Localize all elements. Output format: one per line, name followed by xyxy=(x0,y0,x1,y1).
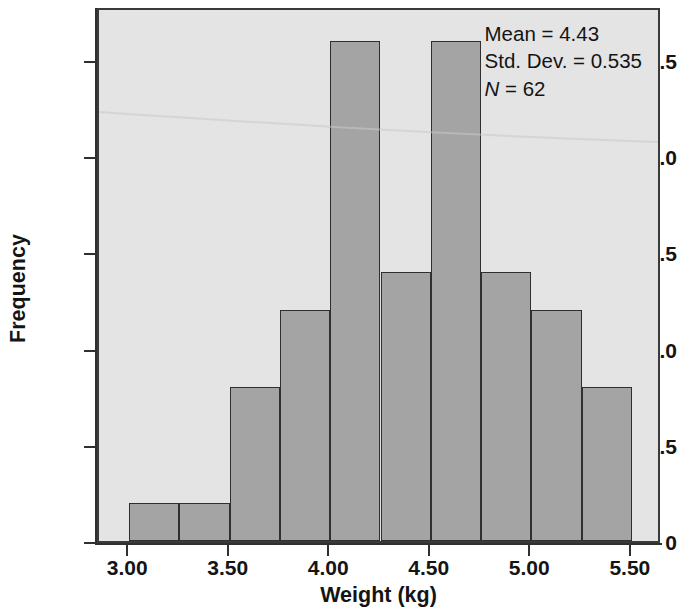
x-axis-tick-mark xyxy=(126,545,128,556)
histogram-bar xyxy=(531,310,581,541)
x-axis-tick-mark xyxy=(629,545,631,556)
histogram-bar xyxy=(582,387,632,541)
histogram-bar xyxy=(179,503,229,541)
x-axis-title: Weight (kg) xyxy=(97,583,660,608)
y-axis-tick-mark xyxy=(84,157,95,159)
y-axis-tick-mark xyxy=(84,253,95,255)
histogram-bar xyxy=(330,41,380,541)
histogram-bar xyxy=(280,310,330,541)
statistics-annotation: Mean = 4.43 Std. Dev. = 0.535 N = 62 xyxy=(485,20,642,102)
stat-n-value: = 62 xyxy=(499,77,545,100)
y-axis-tick-mark xyxy=(84,446,95,448)
y-axis-tick-mark xyxy=(84,350,95,352)
histogram-bar xyxy=(431,41,481,541)
stat-n: N = 62 xyxy=(485,75,642,102)
plot-area: Mean = 4.43 Std. Dev. = 0.535 N = 62 xyxy=(97,8,660,543)
stat-std-dev: Std. Dev. = 0.535 xyxy=(485,47,642,74)
x-axis-tick-label: 4.50 xyxy=(384,556,474,580)
x-axis-tick-mark xyxy=(528,545,530,556)
x-axis-tick-label: 4.00 xyxy=(283,556,373,580)
stat-mean: Mean = 4.43 xyxy=(485,20,642,47)
y-axis-tick-mark xyxy=(84,542,95,544)
x-axis-tick-label: 5.00 xyxy=(484,556,574,580)
y-axis-tick-mark xyxy=(84,61,95,63)
x-axis-line xyxy=(95,543,662,545)
x-axis-tick-mark xyxy=(428,545,430,556)
x-axis-tick-mark xyxy=(227,545,229,556)
x-axis-tick-mark xyxy=(327,545,329,556)
stat-n-symbol: N xyxy=(485,77,500,100)
histogram-bar xyxy=(129,503,179,541)
x-axis-tick-label: 3.00 xyxy=(82,556,172,580)
x-axis-tick-label: 3.50 xyxy=(183,556,273,580)
y-axis-title: Frequency xyxy=(6,189,31,389)
x-axis-tick-label: 5.50 xyxy=(585,556,675,580)
histogram-bar xyxy=(230,387,280,541)
histogram-bar xyxy=(381,272,431,541)
histogram-figure: Frequency 02.55.07.510.012.5 Mean = 4.43… xyxy=(0,0,677,611)
histogram-bar xyxy=(481,272,531,541)
